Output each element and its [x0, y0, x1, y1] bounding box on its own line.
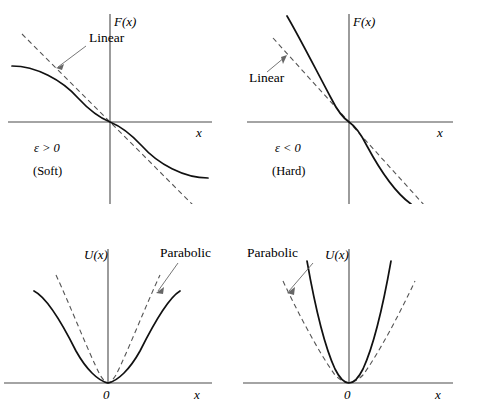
potential-curve-soft	[34, 291, 180, 383]
x-axis-label: x	[436, 125, 443, 140]
x-axis-label: x	[195, 125, 202, 140]
parabolic-label-leader	[158, 263, 178, 291]
y-axis-label: U(x)	[325, 247, 349, 262]
linear-label: Linear	[89, 30, 125, 45]
panel-force-soft: Linear F(x) x ε > 0 (Soft)	[0, 0, 238, 204]
linear-label-arrowhead	[281, 55, 287, 64]
origin-label: 0	[103, 387, 110, 402]
figure-nonlinear-oscillator: Linear F(x) x ε > 0 (Soft) Linear F(x) x…	[0, 0, 477, 409]
parabolic-label: Parabolic	[247, 245, 298, 260]
y-axis-label: U(x)	[84, 247, 108, 262]
linear-label: Linear	[249, 70, 285, 85]
condition-label: ε > 0	[34, 141, 61, 155]
x-axis-label: x	[193, 387, 200, 402]
origin-label: 0	[344, 387, 351, 402]
panel-force-hard: Linear F(x) x ε < 0 (Hard)	[239, 0, 477, 204]
linear-label-arrowhead	[56, 64, 64, 70]
panel-potential-hard: Parabolic U(x) 0 x	[239, 205, 477, 409]
panel-potential-soft: Parabolic U(x) 0 x	[0, 205, 238, 409]
linear-label-leader	[58, 46, 86, 67]
y-axis-label: F(x)	[113, 14, 136, 29]
parabolic-label: Parabolic	[160, 245, 211, 260]
condition-label: ε < 0	[275, 141, 302, 155]
y-axis-label: F(x)	[352, 14, 375, 29]
type-label: (Soft)	[33, 164, 62, 178]
type-label: (Hard)	[272, 164, 305, 178]
x-axis-label: x	[434, 387, 441, 402]
